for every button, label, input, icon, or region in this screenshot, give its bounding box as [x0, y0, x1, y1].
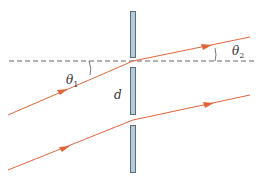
theta2-subscript: 2: [239, 51, 244, 60]
arrow-icon-ray-lower-in: [59, 146, 70, 152]
ray-upper: [8, 37, 250, 115]
barrier-plate-bottom: [131, 126, 136, 173]
theta2-label: θ2: [232, 45, 244, 60]
diagram-canvas: [0, 0, 260, 184]
angle-arc-theta2: [215, 48, 216, 61]
theta1-label: θ1: [66, 74, 78, 89]
arrow-icon-ray-upper-in: [57, 89, 68, 95]
arrow-icon-ray-upper-out: [201, 44, 212, 50]
angle-arc-theta1: [89, 61, 91, 75]
d-symbol: d: [114, 88, 122, 102]
theta1-subscript: 1: [73, 80, 78, 89]
arrow-icon-ray-lower-out: [203, 102, 214, 108]
ray-lower: [8, 95, 250, 170]
diagram: θ1 θ2 d: [0, 0, 260, 184]
barrier-plate-middle: [131, 68, 136, 115]
slit-separation-label: d: [114, 89, 122, 101]
barrier-plate-top: [131, 12, 136, 58]
